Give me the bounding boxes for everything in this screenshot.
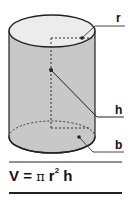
formula-h: h (63, 167, 72, 184)
radius-point (80, 36, 84, 40)
top-face (9, 15, 95, 47)
volume-formula: V = π r2 h (9, 168, 72, 183)
base-label: b (115, 139, 122, 151)
formula-exponent: 2 (55, 166, 59, 175)
formula-volume: V (9, 167, 19, 184)
formula-r: r (49, 167, 55, 184)
height-label: h (115, 104, 122, 116)
cylinder-side (9, 31, 95, 153)
height-point (49, 68, 53, 72)
formula-pi: π (36, 169, 45, 184)
base-point (77, 135, 81, 139)
radius-label: r (116, 12, 121, 24)
formula-equals: = (23, 167, 32, 184)
